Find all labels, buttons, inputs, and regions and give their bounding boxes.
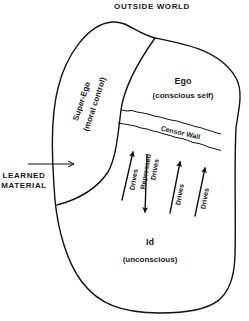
drives-label-1: Drives: [128, 168, 139, 190]
ego-label: Ego: [175, 76, 193, 86]
learned-material-label-line2: MATERIAL: [1, 181, 47, 190]
id-description: (unconscious): [123, 255, 178, 264]
id-label: Id: [146, 237, 154, 247]
ego-description: (conscious self): [153, 91, 214, 100]
learned-material-label-line1: LEARNED: [3, 171, 46, 180]
outside-world-label: OUTSIDE WORLD: [114, 2, 190, 11]
psyche-diagram: OUTSIDE WORLD Censor Wall Super-Ego (mor…: [0, 0, 249, 321]
